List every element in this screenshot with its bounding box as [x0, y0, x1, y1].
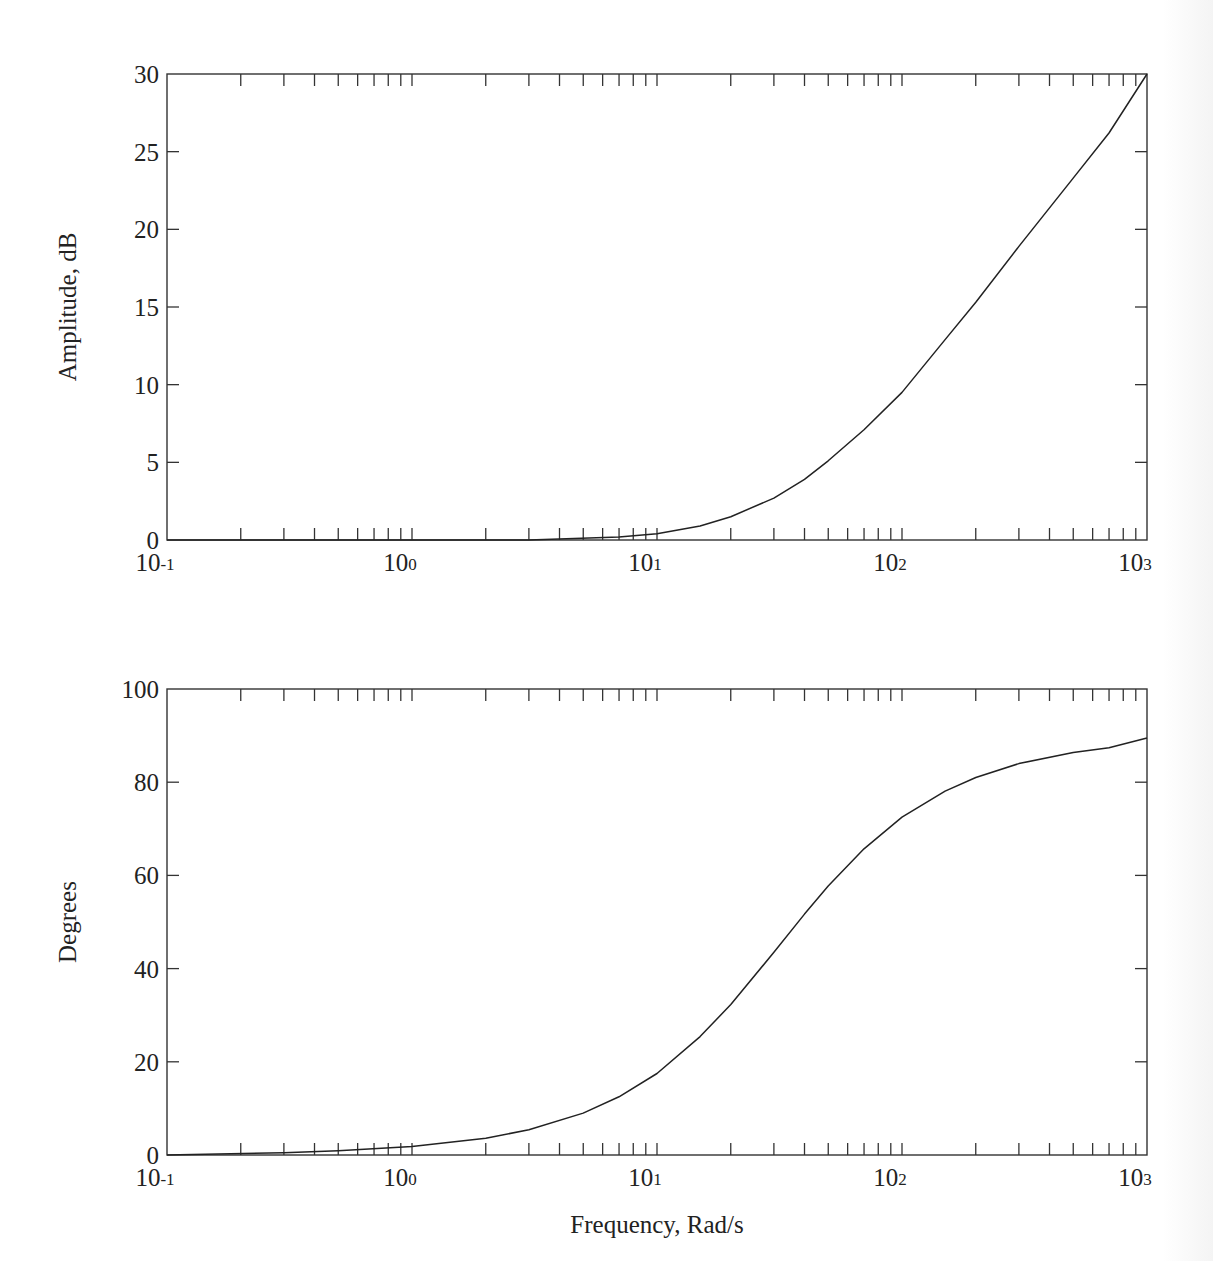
x-tick-label: 10-1: [135, 1164, 174, 1191]
x-tick-label: 100: [383, 549, 417, 576]
x-axis-label: Frequency, Rad/s: [570, 1211, 743, 1238]
y-tick-label: 60: [134, 862, 159, 889]
x-tick-label: 103: [1118, 1164, 1152, 1191]
bode-plot-figure: 051015202530 10-1100101102103 Amplitude,…: [0, 0, 1213, 1261]
x-tick-label: 10-1: [135, 549, 174, 576]
y-tick-label: 20: [134, 216, 159, 243]
phase-plot: 020406080100 10-1100101102103 Degrees: [54, 676, 1152, 1191]
amplitude-x-ticks: [241, 74, 1136, 540]
amplitude-plot: 051015202530 10-1100101102103 Amplitude,…: [54, 61, 1152, 576]
y-tick-label: 100: [122, 676, 160, 703]
x-tick-label: 100: [383, 1164, 417, 1191]
y-tick-label: 20: [134, 1049, 159, 1076]
amplitude-y-ticks: 051015202530: [134, 61, 1147, 554]
phase-y-ticks: 020406080100: [122, 676, 1148, 1169]
x-tick-label: 101: [628, 1164, 662, 1191]
y-tick-label: 15: [134, 294, 159, 321]
y-tick-label: 25: [134, 139, 159, 166]
amplitude-plot-frame: [167, 74, 1147, 540]
y-tick-label: 40: [134, 956, 159, 983]
x-tick-label: 103: [1118, 549, 1152, 576]
y-tick-label: 30: [134, 61, 159, 88]
x-tick-label: 101: [628, 549, 662, 576]
phase-curve: [167, 738, 1147, 1155]
amplitude-y-axis-label: Amplitude, dB: [54, 233, 81, 382]
amplitude-x-tick-labels: 10-1100101102103: [135, 549, 1151, 576]
x-tick-label: 102: [873, 1164, 907, 1191]
amplitude-curve: [167, 74, 1147, 540]
phase-x-ticks: [241, 689, 1136, 1155]
phase-plot-frame: [167, 689, 1147, 1155]
y-tick-label: 5: [147, 449, 160, 476]
x-tick-label: 102: [873, 549, 907, 576]
phase-y-axis-label: Degrees: [54, 881, 81, 963]
phase-x-tick-labels: 10-1100101102103: [135, 1164, 1151, 1191]
y-tick-label: 10: [134, 372, 159, 399]
y-tick-label: 80: [134, 769, 159, 796]
